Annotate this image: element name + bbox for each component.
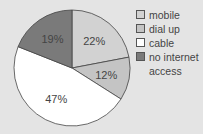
legend-label: no internet access: [149, 50, 203, 78]
legend-item-cable: cable: [136, 36, 203, 50]
pie-label: 47%: [45, 93, 67, 105]
legend-label: cable: [149, 36, 203, 50]
pie-chart: 22%12%47%19%: [0, 0, 140, 134]
legend-item-dial-up: dial up: [136, 22, 203, 36]
pie-label: 12%: [95, 69, 117, 81]
legend: mobile dial up cable no internet access: [136, 8, 203, 78]
legend-label: dial up: [149, 22, 203, 36]
legend-label: mobile: [149, 8, 203, 22]
legend-swatch: [136, 52, 145, 61]
legend-item-mobile: mobile: [136, 8, 203, 22]
legend-swatch: [136, 24, 145, 33]
legend-item-no-internet: no internet access: [136, 50, 203, 78]
legend-swatch: [136, 38, 145, 47]
legend-swatch: [136, 10, 145, 19]
pie-label: 22%: [83, 35, 105, 47]
pie-label: 19%: [41, 33, 63, 45]
